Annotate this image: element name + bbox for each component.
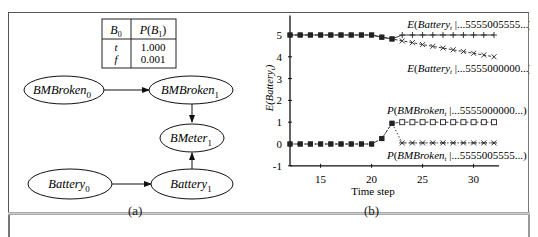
chart-annotations: E(Batteryt |...5555005555...)E(Batteryt …	[386, 18, 530, 163]
y-tick-label: 0	[277, 138, 283, 150]
marker-star	[491, 140, 497, 145]
marker-plus	[460, 32, 466, 38]
marker-open-square	[471, 120, 476, 125]
x-tick-label: 30	[468, 173, 480, 185]
marker-filled-square	[339, 33, 344, 38]
battery-chart: -101234515202530 E(Batteryt |...55550055…	[260, 0, 530, 205]
marker-plus	[471, 32, 477, 38]
marker-filled-square	[318, 142, 323, 147]
marker-filled-square	[379, 35, 384, 40]
marker-plus	[450, 32, 456, 38]
cpt-header-pb1: P(B1)	[139, 23, 167, 39]
marker-filled-square	[308, 142, 313, 147]
marker-filled-square	[298, 33, 303, 38]
node-bmbroken1: BMBroken1	[149, 76, 233, 104]
marker-filled-square	[390, 36, 395, 41]
cpt-row-1-p: 0.001	[141, 53, 166, 65]
marker-star	[471, 140, 477, 145]
y-tick-label: 3	[277, 73, 283, 85]
marker-plus	[491, 32, 497, 38]
marker-star	[440, 140, 446, 145]
marker-open-square	[451, 120, 456, 125]
panel-b-caption: (b)	[364, 203, 379, 219]
marker-open-square	[441, 120, 446, 125]
marker-filled-square	[298, 142, 303, 147]
marker-plus	[430, 32, 436, 38]
marker-star	[409, 140, 415, 145]
marker-plus	[409, 32, 415, 38]
y-tick-label: 1	[277, 116, 283, 128]
lower-frame-right	[528, 215, 530, 237]
x-tick-label: 20	[366, 173, 378, 185]
y-axis-label: E(Batteryt)	[264, 64, 277, 112]
annotation-2: P(BMBrokent |...5555000000...)	[386, 104, 527, 118]
marker-open-square	[410, 120, 415, 125]
marker-filled-square	[328, 142, 333, 147]
annotation-1: E(Batteryt |...5555000000...)	[406, 62, 530, 76]
marker-plus	[420, 32, 426, 38]
y-tick-label: 4	[277, 51, 283, 63]
series-line	[290, 123, 494, 144]
marker-star	[460, 140, 466, 145]
y-tick-label: -1	[273, 160, 282, 172]
marker-open-square	[420, 120, 425, 125]
marker-star	[481, 140, 487, 145]
node-battery0: Battery0	[28, 169, 112, 199]
annotation-0: E(Batteryt |...5555005555...)	[406, 18, 530, 32]
marker-filled-square	[339, 142, 344, 147]
marker-x	[492, 54, 497, 59]
node-bmbroken0: BMBroken0	[24, 76, 104, 104]
marker-filled-square	[359, 142, 364, 147]
marker-filled-square	[349, 33, 354, 38]
marker-filled-square	[349, 142, 354, 147]
marker-filled-square	[328, 33, 333, 38]
marker-filled-square	[379, 136, 384, 141]
cpt-table: B0 P(B1) t 1.000 f 0.001	[102, 19, 176, 68]
marker-star	[399, 140, 405, 145]
marker-star	[420, 140, 426, 145]
marker-filled-square	[359, 33, 364, 38]
cpt-row-0-p: 1.000	[141, 41, 166, 53]
panel-a-caption: (a)	[128, 203, 142, 219]
lower-frame-left	[8, 215, 10, 237]
marker-open-square	[481, 120, 486, 125]
marker-filled-square	[308, 33, 313, 38]
marker-filled-square	[318, 33, 323, 38]
x-tick-label: 15	[315, 173, 327, 185]
marker-open-square	[492, 120, 497, 125]
marker-open-square	[400, 120, 405, 125]
node-bmeter1: BMeter1	[160, 124, 224, 152]
marker-filled-square	[288, 142, 293, 147]
marker-plus	[399, 32, 405, 38]
marker-filled-square	[288, 33, 293, 38]
chart-series	[288, 32, 498, 147]
node-battery1: Battery1	[151, 169, 233, 199]
marker-star	[430, 140, 436, 145]
annotation-3: P(BMBrokent |...5555005555...)	[386, 149, 527, 163]
marker-filled-square	[390, 121, 395, 126]
x-axis-label: Time step	[351, 185, 395, 197]
marker-star	[450, 140, 456, 145]
dbn-diagram: B0 P(B1) t 1.000 f 0.001 BMBroken0 BMBro…	[0, 0, 270, 210]
series-1	[288, 33, 497, 60]
marker-open-square	[461, 120, 466, 125]
marker-open-square	[430, 120, 435, 125]
marker-filled-square	[369, 142, 374, 147]
marker-plus	[440, 32, 446, 38]
y-tick-label: 5	[277, 29, 283, 41]
y-tick-label: 2	[277, 94, 283, 106]
x-tick-label: 25	[417, 173, 429, 185]
figure-bottom-rule	[8, 212, 530, 215]
marker-filled-square	[369, 33, 374, 38]
marker-plus	[481, 32, 487, 38]
